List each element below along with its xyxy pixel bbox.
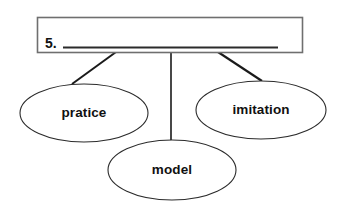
node-left-label: pratice: [62, 105, 107, 120]
connector-right-line: [218, 52, 262, 81]
word-web-diagram: 5. pratice imitation model: [0, 0, 339, 223]
worksheet-canvas: 5. pratice imitation model: [0, 0, 339, 223]
connector-left-line: [72, 52, 116, 84]
node-right-label: imitation: [232, 102, 289, 117]
prompt-number: 5.: [45, 35, 57, 51]
node-bottom-label: model: [152, 162, 192, 177]
